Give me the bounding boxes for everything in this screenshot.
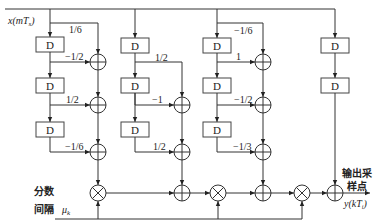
horner-chain — [55, 185, 370, 219]
adder-node — [255, 185, 271, 201]
coefficient-label: −1/6 — [65, 141, 83, 152]
adder-node — [174, 144, 190, 160]
delay-label: D — [213, 80, 221, 92]
coefficient-label: −1/3 — [233, 141, 251, 152]
multiplier-node — [294, 185, 310, 201]
svg-text:x(mTs): x(mTs) — [7, 15, 35, 28]
delay-label: D — [46, 80, 54, 92]
adder-node — [255, 54, 271, 70]
adder-node — [255, 144, 271, 160]
multiplier-node — [210, 185, 226, 201]
svg-text:间隔: 间隔 — [34, 203, 54, 215]
multiplier-node — [90, 185, 106, 201]
fractional-interval-label: 分数 间隔 μk — [34, 185, 71, 217]
input-label: x(mTs) — [7, 15, 35, 28]
coefficient-label: 1/6 — [69, 24, 82, 35]
delay-label: D — [46, 124, 54, 136]
coefficient-label: 1/2 — [153, 141, 166, 152]
delay-label: D — [46, 39, 54, 51]
adder-node — [90, 97, 106, 113]
delay-label: D — [131, 124, 139, 136]
adder-node — [255, 97, 271, 113]
delay-label: D — [131, 80, 139, 92]
delay-label: D — [213, 124, 221, 136]
output-label: 输出采 样点 y(kTi) — [342, 167, 372, 210]
svg-text:y(kTi): y(kTi) — [343, 198, 367, 210]
coefficient-label: 1/2 — [155, 52, 168, 63]
adder-node — [327, 185, 343, 201]
coefficient-label: −1/2 — [65, 51, 83, 62]
coefficient-label: −1 — [152, 94, 163, 105]
delay-labels: D D D D D D D D D D D — [46, 39, 339, 136]
adder-node — [174, 97, 190, 113]
delay-label: D — [331, 40, 339, 52]
svg-text:样点: 样点 — [347, 180, 367, 192]
adder-node — [174, 185, 190, 201]
adder-node — [90, 144, 106, 160]
column-4 — [321, 9, 349, 185]
svg-text:分数: 分数 — [34, 185, 55, 197]
delay-label: D — [131, 40, 139, 52]
adder-node — [90, 54, 106, 70]
coefficient-label: 1/2 — [66, 94, 79, 105]
farrow-diagram: D D D D D D D D D D D 1/6 −1/2 1/2 −1/6 … — [0, 0, 374, 224]
coefficient-label: −1/2 — [234, 94, 252, 105]
delay-label: D — [331, 80, 339, 92]
coefficient-label: 1 — [236, 51, 241, 62]
svg-text:μk: μk — [61, 204, 71, 217]
coefficient-label: −1/6 — [234, 25, 252, 36]
delay-label: D — [213, 40, 221, 52]
svg-text:输出采: 输出采 — [342, 167, 372, 179]
